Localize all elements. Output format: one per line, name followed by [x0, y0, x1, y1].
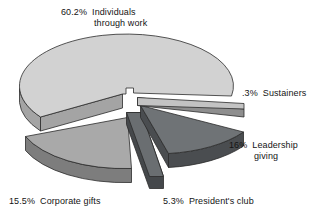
slice-value-presidents-club: 5.3% [163, 196, 184, 206]
pie-chart-graphic [0, 0, 334, 216]
slice-name-corporate-gifts: Corporate gifts [40, 196, 101, 206]
slice-label-corporate-gifts: 15.5%Corporate gifts [9, 196, 101, 207]
pie-chart: 60.2%Individuals through work .3%Sustain… [0, 0, 334, 216]
slice-label-individuals-through-work: 60.2%Individuals through work [61, 7, 147, 29]
slice-name-presidents-club: President's club [189, 196, 254, 206]
slice-name-sustainers: Sustainers [263, 88, 307, 98]
slice-value-sustainers: .3% [242, 88, 258, 98]
slice-label-sustainers: .3%Sustainers [242, 88, 306, 99]
slice-name-leadership-giving: Leadership [252, 140, 298, 150]
slice-label-leadership-giving: 16%Leadership giving [229, 140, 298, 162]
slice-name-individuals-through-work-line2: through work [61, 18, 147, 29]
slice-value-individuals-through-work: 60.2% [61, 7, 87, 17]
slice-name-individuals-through-work: Individuals [92, 7, 136, 17]
slice-name-leadership-giving-line2: giving [229, 151, 298, 162]
slice-label-presidents-club: 5.3%President's club [163, 196, 254, 207]
slice-value-corporate-gifts: 15.5% [9, 196, 35, 206]
slice-value-leadership-giving: 16% [229, 140, 247, 150]
